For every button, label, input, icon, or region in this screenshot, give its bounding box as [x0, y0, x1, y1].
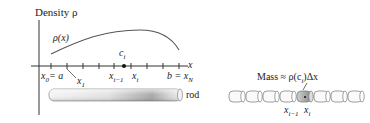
- rod-label: rod: [186, 90, 199, 100]
- curve-label: ρ(x): [53, 33, 69, 43]
- xi-label: xi: [132, 71, 138, 84]
- x0-label: x0= a: [41, 71, 63, 84]
- x1-leader: [67, 69, 76, 78]
- sample-point-ci: [122, 64, 126, 68]
- segment-point: [304, 96, 306, 98]
- right-xi-label: xi: [304, 105, 310, 118]
- b-xN-label: b = xN: [167, 71, 193, 84]
- x-axis-label: x: [188, 60, 192, 70]
- density-curve: [51, 30, 179, 54]
- xim1-label: xi−1: [109, 71, 124, 84]
- diagram-canvas: [0, 0, 370, 123]
- right-xim1-label: xi−1: [284, 105, 299, 118]
- ci-label: ci: [119, 48, 125, 61]
- y-axis-label: Density ρ: [35, 7, 77, 18]
- rod: [49, 89, 183, 101]
- mass-label: Mass ≈ ρ(ci)Δx: [257, 72, 318, 85]
- x1-label: x1: [77, 76, 85, 89]
- segmented-rod: [229, 91, 364, 102]
